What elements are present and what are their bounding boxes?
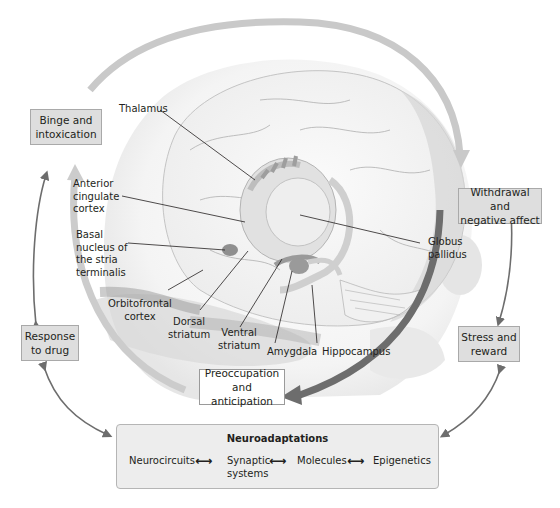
label-anterior-cingulate-cortex: Anterior cingulate cortex [73,178,119,216]
stage-binge-intoxication: Binge and intoxication [30,109,102,145]
label-orbitofrontal-cortex: Orbitofrontal cortex [108,298,172,323]
item-molecules: Molecules [297,455,347,468]
double-arrow-icon: ⟷ [195,454,212,468]
item-epigenetics: Epigenetics [373,455,431,468]
brain-illustration [163,71,466,326]
stage-preoccupation-anticipation: Preoccupation and anticipation [199,369,285,405]
neuroadaptations-panel: Neuroadaptations Neurocircuits ⟷ Synapti… [116,424,439,489]
label-hippocampus: Hippocampus [322,346,390,359]
label-amygdala: Amygdala [267,346,317,359]
stress-and-reward-box: Stress and reward [458,326,520,362]
label-dorsal-striatum: Dorsal striatum [168,316,210,341]
stage-withdrawal-negative-affect: Withdrawal and negative affect [458,188,542,224]
item-neurocircuits: Neurocircuits [129,455,195,468]
neuroadaptations-title: Neuroadaptations [117,433,438,444]
label-basal-nucleus-stria-terminalis: Basal nucleus of the stria terminalis [76,229,127,279]
double-arrow-icon: ⟷ [269,454,286,468]
label-ventral-striatum: Ventral striatum [218,327,260,352]
response-to-drug-box: Response to drug [21,325,79,361]
label-thalamus: Thalamus [119,103,168,116]
double-arrow-icon: ⟷ [347,454,364,468]
item-synaptic-systems: Synaptic systems [227,455,270,480]
label-globus-pallidus: Globus pallidus [428,236,467,261]
